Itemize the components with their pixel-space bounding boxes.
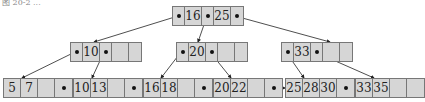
pointer-cell <box>173 7 185 25</box>
pointer-cell <box>235 43 247 61</box>
pointer-dot-icon <box>235 14 239 18</box>
key-cell <box>390 79 407 97</box>
figure-caption: 图 20-2 ... <box>2 0 41 7</box>
leaf-node: 20 22 <box>213 78 283 98</box>
pointer-dot-icon <box>181 50 185 54</box>
key-cell: 10 <box>74 79 91 97</box>
key-cell: 7 <box>21 79 38 97</box>
internal-node: 20 <box>176 42 248 62</box>
key-cell: 16 <box>144 79 161 97</box>
pointer-cell <box>129 43 141 61</box>
next-pointer-cell <box>337 79 354 97</box>
key-cell: 16 <box>185 7 202 25</box>
leaf-node: 5 7 <box>3 78 73 98</box>
key-cell: 18 <box>161 79 178 97</box>
pointer-cell <box>177 43 189 61</box>
key-cell: 5 <box>4 79 21 97</box>
root-node: 16 25 <box>172 6 244 26</box>
key-cell <box>248 79 265 97</box>
next-pointer-cell <box>265 79 282 97</box>
leaf-node: 10 13 <box>73 78 143 98</box>
key-cell: 30 <box>320 79 337 97</box>
leaf-node: 25 28 30 <box>285 78 355 98</box>
internal-node: 10 <box>70 42 142 62</box>
next-pointer-cell <box>125 79 142 97</box>
pointer-dot-icon <box>132 86 136 90</box>
pointer-cell <box>71 43 83 61</box>
key-cell: 22 <box>231 79 248 97</box>
next-pointer-cell <box>195 79 212 97</box>
leaf-node: 33 35 <box>355 78 425 98</box>
key-cell <box>178 79 195 97</box>
next-pointer-cell <box>55 79 72 97</box>
key-cell: 10 <box>83 43 100 61</box>
pointer-dot-icon <box>344 86 348 90</box>
key-cell: 33 <box>294 43 311 61</box>
pointer-dot-icon <box>202 86 206 90</box>
pointer-dot-icon <box>75 50 79 54</box>
key-cell <box>218 43 235 61</box>
key-cell <box>108 79 125 97</box>
pointer-cell <box>231 7 243 25</box>
pointer-cell <box>202 7 214 25</box>
pointer-dot-icon <box>210 50 214 54</box>
next-pointer-cell <box>407 79 424 97</box>
key-cell: 25 <box>214 7 231 25</box>
pointer-dot-icon <box>272 86 276 90</box>
pointer-dot-icon <box>286 50 290 54</box>
pointer-cell <box>100 43 112 61</box>
internal-node: 33 <box>281 42 353 62</box>
pointer-dot-icon <box>206 14 210 18</box>
pointer-cell <box>206 43 218 61</box>
pointer-dot-icon <box>104 50 108 54</box>
key-cell: 20 <box>214 79 231 97</box>
key-cell: 28 <box>303 79 320 97</box>
pointer-cell <box>340 43 352 61</box>
pointer-dot-icon <box>177 14 181 18</box>
key-cell: 13 <box>91 79 108 97</box>
pointer-dot-icon <box>62 86 66 90</box>
key-cell <box>38 79 55 97</box>
key-cell: 20 <box>189 43 206 61</box>
key-cell <box>112 43 129 61</box>
key-cell <box>323 43 340 61</box>
key-cell: 33 <box>356 79 373 97</box>
leaf-node: 16 18 <box>143 78 213 98</box>
key-cell: 25 <box>286 79 303 97</box>
pointer-cell <box>311 43 323 61</box>
key-cell: 35 <box>373 79 390 97</box>
pointer-cell <box>282 43 294 61</box>
pointer-dot-icon <box>315 50 319 54</box>
